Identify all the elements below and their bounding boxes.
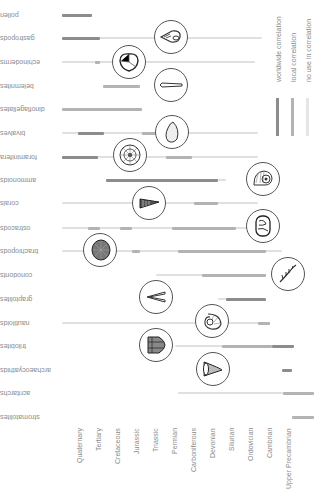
range-bar-local [62,108,142,111]
range-bar-local [178,250,266,253]
range-bar-local [132,250,140,253]
period-label-text: Jurassic [133,428,140,490]
taxon-label: echinoderms [0,58,62,66]
taxon-label: ostracods [0,224,62,232]
trilobite-icon [139,328,173,362]
period-label: Silurian [228,428,242,494]
period-label-text: Ordovician [247,428,254,490]
taxon-label: corals [0,199,62,207]
range-bar-local [120,227,132,230]
legend-swatch-none [306,98,309,136]
period-label-text: Devonian [209,428,216,490]
foraminifera-icon [113,138,147,172]
range-bar-local [292,416,314,419]
taxon-label: graptolites [0,295,62,303]
legend-label-worldwide: worldwide correlation [275,6,282,82]
taxon-label: nautiloids [0,319,62,327]
range-bar-local [194,202,218,205]
coral-icon [132,186,166,220]
taxon-label: conodonts [0,271,62,279]
legend-label-none: no use in correlation [305,6,312,82]
range-bar-none [62,61,255,63]
range-bar-local [88,227,100,230]
brachiopod-icon [83,233,117,267]
archaeocyathid-icon [196,352,230,386]
taxon-label: belemnites [0,82,62,90]
gastropod-icon [154,20,188,54]
period-label: Permian [171,428,185,494]
range-chart: pollengastropodsechinodermsbelemnitesdin… [0,0,322,496]
taxon-label: foraminifera [0,153,62,161]
period-label-text: Upper Precambrian [285,428,301,490]
range-bar-worldwide [282,369,292,372]
period-label-text: Quaternary [76,428,83,490]
period-label: Carboniferous [190,428,204,494]
period-label-text: Cretaceous [114,428,121,490]
conodont-icon [271,257,305,291]
period-label: Upper Precambrian [285,428,299,494]
taxon-label: gastropods [0,34,62,42]
period-label-text: Silurian [228,428,235,490]
period-label: Tertiary [95,428,109,494]
period-label: Quaternary [76,428,90,494]
range-bar-none [218,298,226,300]
echinoderm-icon [112,45,146,79]
range-bar-none [218,179,226,181]
range-bar-none [62,322,266,324]
belemnite-icon [154,68,188,102]
range-bar-worldwide [78,132,104,135]
range-bar-worldwide [62,14,92,17]
taxon-label: brachiopods [0,247,62,255]
range-bar-local [202,274,266,277]
period-label: Cambrian [266,428,280,494]
period-label: Devonian [209,428,223,494]
taxon-label: acritarchs [0,389,62,397]
period-label: Triassic [152,428,166,494]
graptolite-icon [139,280,173,314]
range-bar-worldwide [62,156,98,159]
taxon-label: archaeocyathids [0,366,62,374]
range-bar-local [283,392,314,395]
period-label-text: Tertiary [95,428,102,490]
period-label-text: Carboniferous [190,428,197,490]
nautiloid-icon [195,304,229,338]
period-label-text: Triassic [152,428,159,490]
taxon-label: trilobites [0,342,62,350]
taxon-label: stromatolites [0,413,62,421]
legend-label-local: local correlation [290,6,297,82]
range-bar-local [103,85,140,88]
range-bar-worldwide [272,345,294,348]
range-bar-local [95,61,100,64]
range-bar-none [178,392,283,394]
taxon-label: pollen [0,11,62,19]
taxon-label: ammonoids [0,176,62,184]
range-bar-worldwide [226,298,266,301]
legend-swatch-worldwide [276,98,279,136]
legend-swatch-local [291,98,294,136]
period-label-text: Permian [171,428,178,490]
ammonoid-icon [246,162,280,196]
range-bar-local [222,345,272,348]
range-bar-worldwide [106,179,218,182]
period-label: Cretaceous [114,428,128,494]
ostracod-icon [246,209,280,243]
taxon-label: dinoflagellates [0,105,62,113]
period-label: Jurassic [133,428,147,494]
period-label: Ordovician [247,428,261,494]
range-bar-local [172,227,236,230]
range-bar-local [258,322,270,325]
range-bar-worldwide [62,37,100,40]
range-bar-local [166,156,192,159]
period-label-text: Cambrian [266,428,273,490]
bivalve-icon [155,115,189,149]
taxon-label: bivalves [0,129,62,137]
